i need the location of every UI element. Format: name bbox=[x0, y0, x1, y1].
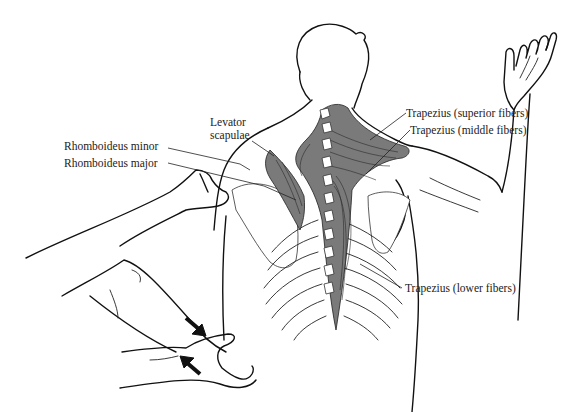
patient-bent-arm bbox=[62, 260, 226, 352]
figure-drawing bbox=[0, 0, 580, 412]
label-trapezius-middle: Trapezius (middle fibers) bbox=[410, 124, 526, 137]
anatomy-figure: Levator scapulae Rhomboideus minor Rhomb… bbox=[0, 0, 580, 412]
examiner-upper-arm bbox=[26, 170, 228, 258]
label-levator-scapulae: Levator scapulae bbox=[210, 116, 250, 142]
label-levator-line1: Levator bbox=[210, 116, 250, 129]
head-outline bbox=[297, 24, 369, 108]
raised-arm bbox=[412, 146, 502, 192]
label-rhomboideus-minor: Rhomboideus minor bbox=[64, 140, 158, 153]
label-trapezius-lower: Trapezius (lower fibers) bbox=[405, 282, 516, 295]
examiner-lower-hand bbox=[122, 334, 254, 379]
label-levator-line2: scapulae bbox=[210, 129, 250, 142]
push-arrow-lower bbox=[180, 356, 200, 374]
label-rhomboideus-major: Rhomboideus major bbox=[64, 157, 158, 170]
push-arrow-upper bbox=[186, 318, 206, 336]
label-trapezius-superior: Trapezius (superior fibers) bbox=[406, 107, 528, 120]
